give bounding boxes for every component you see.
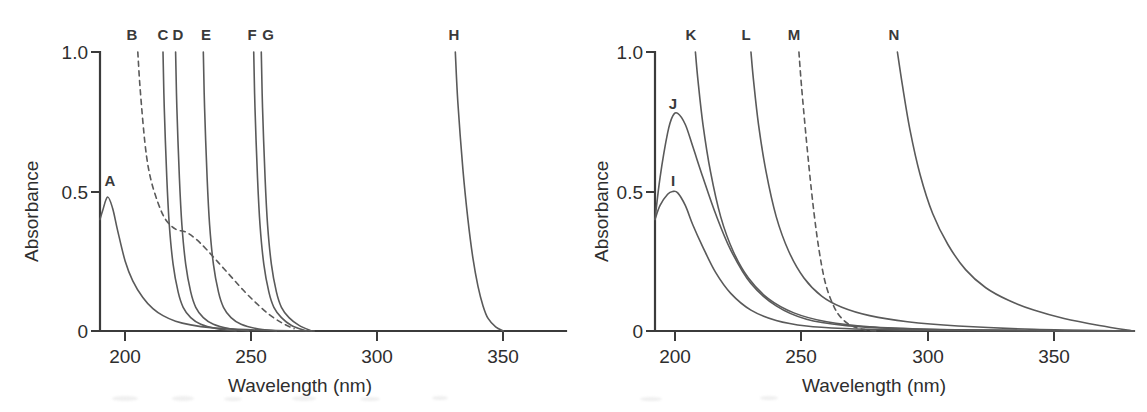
x-tick-label-300-left: 300 <box>361 346 393 367</box>
x-axis-title-right: Wavelength (nm) <box>802 375 946 396</box>
y-tick-label-0-left: 0 <box>77 321 88 342</box>
y-axis-title-right: Absorbance <box>591 161 612 262</box>
curve-label-C: C <box>158 26 169 43</box>
scan-artifact <box>112 396 138 401</box>
curve-label-H: H <box>449 26 460 43</box>
curve-label-N: N <box>889 26 900 43</box>
x-axis-title-left: Wavelength (nm) <box>228 375 372 396</box>
x-tick-label-350-left: 350 <box>487 346 519 367</box>
x-tick-label-350-right: 350 <box>1038 346 1070 367</box>
curve-C <box>163 52 236 331</box>
curve-label-A: A <box>105 172 116 189</box>
x-tick-label-200-right: 200 <box>659 346 691 367</box>
scan-artifact <box>360 397 380 401</box>
curve-label-K: K <box>686 26 697 43</box>
y-tick-label-1.0-right: 1.0 <box>617 42 643 63</box>
y-axis-title-left: Absorbance <box>21 161 42 262</box>
x-tick-label-300-right: 300 <box>912 346 944 367</box>
curve-A <box>100 197 314 331</box>
uv-spectra-figure: Absorbance 1.0 0.5 0 200 250 300 350 Wav… <box>0 0 1147 412</box>
curve-J <box>655 113 1134 331</box>
scan-artifact <box>224 397 242 401</box>
chart-panel-right: Absorbance 1.0 0.5 0 200 250 300 350 Wav… <box>574 0 1147 412</box>
y-tick-label-0.5-left: 0.5 <box>62 182 88 203</box>
y-tick-label-0.5-right: 0.5 <box>617 182 643 203</box>
left-panel-svg: Absorbance 1.0 0.5 0 200 250 300 350 Wav… <box>0 0 574 412</box>
scan-artifact <box>292 396 316 401</box>
chart-panel-left: Absorbance 1.0 0.5 0 200 250 300 350 Wav… <box>0 0 574 412</box>
curve-B <box>138 52 294 329</box>
curve-M <box>799 52 877 331</box>
curve-N <box>897 52 1134 331</box>
curve-label-B: B <box>127 26 138 43</box>
curve-group-right <box>655 52 1134 331</box>
curve-label-I: I <box>671 172 675 189</box>
curve-L <box>751 52 1134 331</box>
curve-label-G: G <box>262 26 274 43</box>
curve-label-L: L <box>741 26 750 43</box>
x-tick-label-250-right: 250 <box>785 346 817 367</box>
curve-label-E: E <box>201 26 211 43</box>
curve-group-left <box>100 52 503 331</box>
curve-label-M: M <box>788 26 801 43</box>
scan-artifact <box>760 396 778 400</box>
y-tick-label-1.0-left: 1.0 <box>62 42 88 63</box>
curve-I <box>655 191 1134 331</box>
curve-label-F: F <box>247 26 256 43</box>
curve-D <box>176 52 249 331</box>
scan-artifact <box>640 397 662 401</box>
curve-H <box>455 52 503 331</box>
scan-artifact <box>172 396 194 401</box>
right-panel-svg: Absorbance 1.0 0.5 0 200 250 300 350 Wav… <box>574 0 1147 412</box>
x-tick-label-250-left: 250 <box>235 346 267 367</box>
x-tick-label-200-left: 200 <box>109 346 141 367</box>
y-tick-label-0-right: 0 <box>632 321 643 342</box>
curve-K <box>695 52 1134 331</box>
curve-label-J: J <box>669 95 677 112</box>
scan-artifact <box>432 396 448 400</box>
curve-label-D: D <box>173 26 184 43</box>
